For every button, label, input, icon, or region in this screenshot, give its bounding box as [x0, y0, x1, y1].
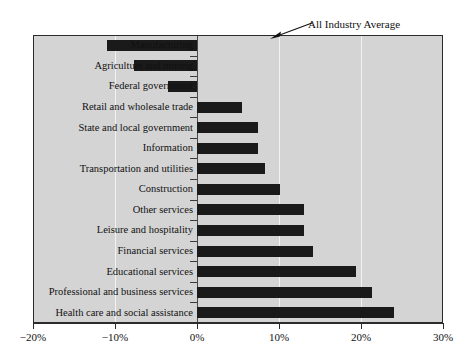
bar-state-and-local-government — [197, 122, 258, 133]
category-label-information: Information — [143, 142, 193, 154]
category-label-construction: Construction — [139, 183, 193, 195]
x-tick--10 — [115, 323, 116, 329]
x-tick-label-0: 0% — [167, 331, 227, 344]
industry-employment-growth-chart: ManufacturingAgriculture and miningFeder… — [0, 0, 475, 364]
category-label-leisure-and-hospitality: Leisure and hospitality — [97, 224, 193, 236]
category-label-financial-services: Financial services — [117, 245, 193, 257]
x-tick-label--10: −10% — [85, 331, 145, 344]
x-tick--20 — [33, 323, 34, 329]
bar-information — [197, 143, 258, 154]
x-tick-0 — [197, 323, 198, 329]
category-label-educational-services: Educational services — [106, 266, 193, 278]
x-tick-label-10: 10% — [249, 331, 309, 344]
category-label-manufacturing: Manufacturing — [131, 39, 193, 51]
bar-educational-services — [197, 266, 356, 277]
x-tick-label--20: −20% — [3, 331, 63, 344]
x-tick-20 — [361, 323, 362, 329]
bar-financial-services — [197, 246, 313, 257]
x-tick-10 — [279, 323, 280, 329]
category-label-health-care-and-social-assistance: Health care and social assistance — [55, 307, 193, 319]
bar-professional-and-business-services — [197, 287, 372, 298]
x-tick-30 — [443, 323, 444, 329]
category-label-professional-and-business-services: Professional and business services — [49, 286, 193, 298]
x-axis-line — [33, 323, 443, 324]
bar-transportation-and-utilities — [197, 163, 265, 174]
x-tick-label-30: 30% — [413, 331, 473, 344]
bar-leisure-and-hospitality — [197, 225, 304, 236]
bar-other-services — [197, 204, 304, 215]
category-label-transportation-and-utilities: Transportation and utilities — [80, 163, 193, 175]
bar-retail-and-wholesale-trade — [197, 102, 242, 113]
bar-construction — [197, 184, 280, 195]
category-label-other-services: Other services — [133, 204, 193, 216]
all-industry-average-label: All Industry Average — [308, 18, 400, 31]
category-label-state-and-local-government: State and local government — [78, 122, 193, 134]
category-label-agriculture-and-mining: Agriculture and mining — [94, 60, 193, 72]
category-label-retail-and-wholesale-trade: Retail and wholesale trade — [82, 101, 193, 113]
category-labels: ManufacturingAgriculture and miningFeder… — [0, 35, 197, 323]
category-label-federal-government: Federal government — [109, 80, 193, 92]
x-tick-label-20: 20% — [331, 331, 391, 344]
bar-health-care-and-social-assistance — [197, 307, 394, 318]
